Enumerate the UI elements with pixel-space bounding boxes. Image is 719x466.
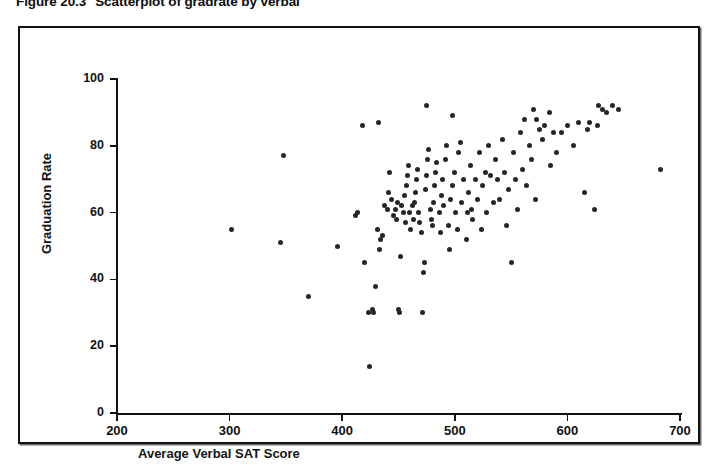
y-tick-label-40: 40: [58, 271, 104, 285]
data-point: [386, 190, 391, 195]
data-point: [592, 207, 597, 212]
data-point: [448, 197, 453, 202]
data-point: [513, 177, 518, 182]
data-point: [281, 153, 286, 158]
data-point: [376, 120, 381, 125]
data-point: [452, 170, 457, 175]
data-point: [440, 177, 445, 182]
data-point: [403, 220, 408, 225]
data-point: [488, 173, 493, 178]
data-point: [459, 200, 464, 205]
data-point: [405, 173, 410, 178]
data-point: [450, 183, 455, 188]
data-point: [518, 130, 523, 135]
data-point: [433, 170, 438, 175]
figure-title: Scatterplot of gradrate by verbal: [95, 0, 300, 9]
data-point: [375, 227, 380, 232]
data-point: [444, 143, 449, 148]
data-point: [495, 177, 500, 182]
data-point: [450, 113, 455, 118]
data-point: [406, 163, 411, 168]
data-point: [565, 123, 570, 128]
x-tick-400: [341, 414, 343, 421]
data-point: [278, 240, 283, 245]
data-point: [380, 233, 385, 238]
data-point: [423, 187, 428, 192]
data-point: [477, 150, 482, 155]
data-point: [554, 150, 559, 155]
y-tick-label-80: 80: [58, 138, 104, 152]
data-point: [548, 163, 553, 168]
data-point: [373, 284, 378, 289]
y-tick-60: [110, 212, 117, 214]
data-point: [473, 177, 478, 182]
data-point: [420, 310, 425, 315]
data-point: [446, 223, 451, 228]
data-point: [522, 117, 527, 122]
y-tick-20: [110, 345, 117, 347]
x-tick-label-200: 200: [87, 423, 147, 438]
data-point: [430, 223, 435, 228]
data-point: [424, 173, 429, 178]
data-point: [587, 120, 592, 125]
data-point: [419, 230, 424, 235]
data-point: [434, 160, 439, 165]
data-point: [401, 210, 406, 215]
x-axis-line: [116, 413, 682, 415]
data-point: [515, 207, 520, 212]
data-point: [414, 177, 419, 182]
data-point: [479, 227, 484, 232]
figure-number: Figure 20.3: [16, 0, 86, 9]
data-point: [500, 137, 505, 142]
data-point: [229, 227, 234, 232]
x-tick-label-400: 400: [312, 423, 372, 438]
data-point: [360, 123, 365, 128]
data-point: [397, 310, 402, 315]
data-point: [425, 157, 430, 162]
data-point: [367, 364, 372, 369]
x-tick-700: [679, 414, 681, 421]
data-point: [389, 197, 394, 202]
data-point: [468, 163, 473, 168]
data-point: [464, 237, 469, 242]
data-point: [385, 207, 390, 212]
data-point: [412, 200, 417, 205]
x-tick-label-500: 500: [425, 423, 485, 438]
y-tick-label-20: 20: [58, 338, 104, 352]
x-tick-label-600: 600: [537, 423, 597, 438]
data-point: [461, 177, 466, 182]
data-point: [466, 190, 471, 195]
data-point: [416, 210, 421, 215]
data-point: [524, 183, 529, 188]
data-point: [399, 203, 404, 208]
data-point: [542, 123, 547, 128]
data-point: [491, 200, 496, 205]
figure-frame: 020406080100 200300400500600700 Graduati…: [18, 26, 700, 444]
data-point: [456, 150, 461, 155]
data-point: [595, 123, 600, 128]
y-tick-80: [110, 145, 117, 147]
data-point: [387, 170, 392, 175]
data-point: [483, 170, 488, 175]
x-tick-label-700: 700: [650, 423, 710, 438]
data-point: [484, 210, 489, 215]
scatter-plot-area: [117, 79, 680, 413]
data-point: [585, 127, 590, 132]
data-point: [411, 217, 416, 222]
data-point: [398, 254, 403, 259]
data-point: [422, 260, 427, 265]
data-point: [506, 187, 511, 192]
data-point: [431, 200, 436, 205]
y-axis-label: Graduation Rate: [39, 94, 54, 314]
data-point: [437, 210, 442, 215]
data-point: [453, 210, 458, 215]
data-point: [540, 137, 545, 142]
x-tick-label-300: 300: [200, 423, 260, 438]
data-point: [393, 207, 398, 212]
data-point: [441, 203, 446, 208]
data-point: [616, 107, 621, 112]
data-point: [421, 270, 426, 275]
data-point: [559, 130, 564, 135]
data-point: [537, 127, 542, 132]
data-point: [502, 170, 507, 175]
